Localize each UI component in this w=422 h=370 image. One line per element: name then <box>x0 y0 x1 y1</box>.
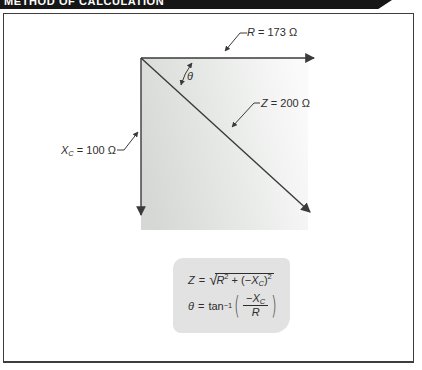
z-value-label: Z = 200 Ω <box>261 97 310 109</box>
xc-leader-line <box>117 132 138 150</box>
impedance-formula: Z = √ R2 + (−XC)2 <box>188 273 290 286</box>
r-value: = 173 Ω <box>255 26 297 38</box>
radicand: R2 + (−XC)2 <box>215 273 273 286</box>
xc-value-label: XC = 100 Ω <box>61 144 116 156</box>
f1-equals: = <box>199 274 205 286</box>
f2-lhs: θ <box>188 300 194 312</box>
f1-x: X <box>251 274 258 286</box>
r-leader-line <box>225 33 247 51</box>
f2-denominator: R <box>252 306 260 318</box>
z-variable: Z <box>261 97 268 109</box>
f1-lhs: Z <box>188 274 195 286</box>
r-value-label: R = 173 Ω <box>247 26 297 38</box>
f2-x-subscript: C <box>260 297 265 306</box>
f1-x-exponent: 2 <box>268 272 272 281</box>
xc-value: = 100 Ω <box>74 144 116 156</box>
formula-box: Z = √ R2 + (−XC)2 θ = tan −1 ( −XC R ) <box>173 258 290 333</box>
square-root: √ R2 + (−XC)2 <box>209 273 274 286</box>
f2-fraction: −XC R <box>243 293 268 318</box>
f2-x: X <box>252 292 259 304</box>
f2-close-paren: ) <box>271 293 276 318</box>
triangle-shading <box>141 58 308 230</box>
f2-equals: = <box>198 300 204 312</box>
phase-angle-formula: θ = tan −1 ( −XC R ) <box>188 293 290 318</box>
f2-open-paren: ( <box>234 293 239 318</box>
f2-numerator: −XC <box>243 293 268 306</box>
z-value: = 200 Ω <box>268 97 310 109</box>
f1-plus: + (− <box>229 274 252 286</box>
theta-symbol: θ <box>187 70 193 82</box>
r-variable: R <box>247 26 255 38</box>
f2-tan: tan <box>208 300 223 312</box>
